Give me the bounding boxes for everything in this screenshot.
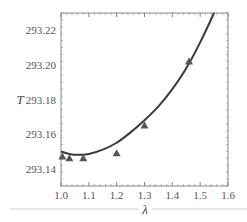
y-tick-label: 293.22 (26, 24, 56, 36)
y-tick-label: 293.18 (26, 94, 57, 106)
y-tick-label: 293.20 (26, 59, 57, 71)
x-axis-label: λ (141, 202, 148, 217)
x-tick-label: 1.0 (54, 189, 68, 201)
x-tick-label: 1.1 (82, 189, 96, 201)
x-tick-label: 1.6 (221, 189, 235, 201)
y-tick-label: 293.16 (26, 128, 57, 140)
data-markers (58, 57, 193, 161)
fit-curve (61, 13, 214, 155)
y-tick-labels: 293.14293.16293.18293.20293.22 (26, 24, 57, 174)
x-tick-labels: 1.01.11.21.31.41.51.6 (54, 189, 235, 201)
x-tick-label: 1.5 (193, 189, 207, 201)
y-axis-label: T (16, 92, 24, 107)
y-tick-label: 293.14 (26, 163, 57, 175)
x-tick-label: 1.3 (138, 189, 152, 201)
chart: 1.01.11.21.31.41.51.6 293.14293.16293.18… (0, 0, 247, 222)
x-tick-label: 1.4 (165, 189, 179, 201)
triangle-marker-icon (113, 149, 121, 156)
x-tick-label: 1.2 (110, 189, 124, 201)
